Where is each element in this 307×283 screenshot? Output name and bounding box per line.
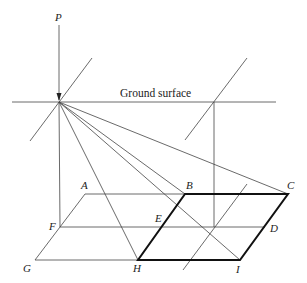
- label-d: D: [269, 222, 278, 234]
- label-g: G: [23, 262, 31, 274]
- label-f: F: [48, 220, 56, 232]
- label-h: H: [132, 262, 142, 274]
- label-c: C: [287, 179, 295, 191]
- ray-to-c: [59, 102, 288, 194]
- ground-surface-diagram: P Ground surface A B C F E D G H I: [0, 0, 307, 283]
- label-a: A: [80, 179, 88, 191]
- label-i: I: [235, 263, 241, 275]
- ray-to-b: [59, 102, 185, 194]
- ground-surface-label: Ground surface: [120, 87, 191, 99]
- ray-to-h: [59, 102, 138, 260]
- right-upper-diagonal: [185, 58, 247, 140]
- label-b: B: [186, 179, 193, 191]
- label-p: P: [54, 11, 62, 23]
- label-e: E: [154, 212, 162, 224]
- apex-diagonal-line: [30, 58, 92, 141]
- apex-to-f-line: [59, 102, 60, 227]
